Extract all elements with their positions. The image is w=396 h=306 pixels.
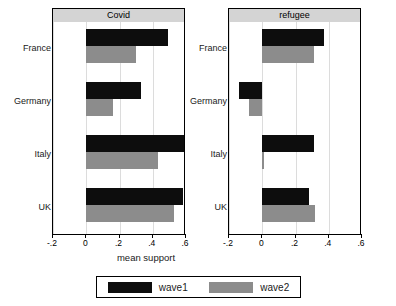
legend-entry-wave1: wave1 <box>108 282 188 293</box>
x-tick-label: .2 <box>107 238 131 248</box>
bar-germany-wave2 <box>249 99 262 116</box>
legend-entry-wave2: wave2 <box>209 282 289 293</box>
bar-germany-wave1 <box>239 82 262 99</box>
x-tick-label: .4 <box>316 238 340 248</box>
legend-swatch-wave2-icon <box>209 282 253 293</box>
legend-label-wave1: wave1 <box>159 282 188 293</box>
x-tick-label: -.2 <box>40 238 64 248</box>
category-label-germany: Germany <box>14 96 51 106</box>
bar-germany-wave1 <box>86 82 141 99</box>
category-label-uk: UK <box>38 202 51 212</box>
bar-germany-wave2 <box>86 99 113 116</box>
bar-france-wave1 <box>262 29 324 46</box>
x-tick-label: 0 <box>73 238 97 248</box>
bar-uk-wave2 <box>262 205 315 222</box>
bar-italy-wave1 <box>262 135 314 152</box>
bar-france-wave2 <box>262 46 314 63</box>
bar-italy-wave2 <box>262 152 264 169</box>
chart-root: Covid -.20.2.4.6 refugee -.20.2.4.6 Fran… <box>0 0 396 306</box>
gridline <box>229 22 230 234</box>
gridline <box>53 22 54 234</box>
panel-covid: Covid -.20.2.4.6 <box>52 8 185 248</box>
bar-france-wave2 <box>86 46 136 63</box>
category-label-france: France <box>199 43 227 53</box>
plot-area-covid <box>52 22 185 234</box>
chart-legend: wave1 wave2 <box>96 276 301 298</box>
category-label-uk: UK <box>214 202 227 212</box>
bar-italy-wave2 <box>86 152 157 169</box>
category-label-italy: Italy <box>210 149 227 159</box>
panel-refugee: refugee -.20.2.4.6 <box>228 8 361 248</box>
legend-swatch-wave1-icon <box>108 282 152 293</box>
x-tick-label: .4 <box>140 238 164 248</box>
x-tick-label: .2 <box>283 238 307 248</box>
bar-italy-wave1 <box>86 135 185 152</box>
plot-area-refugee <box>228 22 361 234</box>
x-tick-label: 0 <box>249 238 273 248</box>
bar-uk-wave2 <box>86 205 174 222</box>
category-label-germany: Germany <box>190 96 227 106</box>
x-tick-label: .6 <box>349 238 373 248</box>
category-label-france: France <box>23 43 51 53</box>
gridline <box>329 22 330 234</box>
bar-uk-wave1 <box>262 188 309 205</box>
x-tick-label: -.2 <box>216 238 240 248</box>
panel-title-refugee: refugee <box>228 8 361 23</box>
bar-france-wave1 <box>86 29 167 46</box>
panel-title-covid: Covid <box>52 8 185 23</box>
x-tick-label: .6 <box>173 238 197 248</box>
bar-uk-wave1 <box>86 188 182 205</box>
x-axis-title: mean support <box>0 252 344 263</box>
legend-label-wave2: wave2 <box>260 282 289 293</box>
category-label-italy: Italy <box>34 149 51 159</box>
